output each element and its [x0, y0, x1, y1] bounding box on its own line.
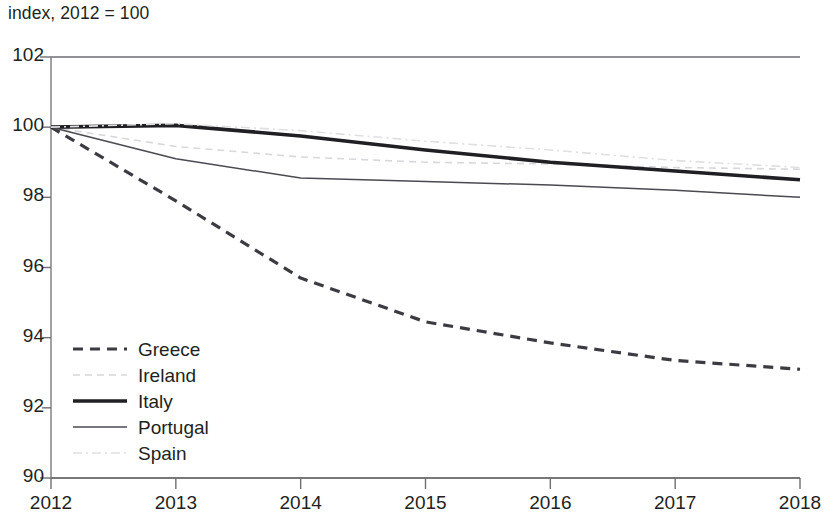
legend-label-italy: Italy: [138, 392, 173, 411]
series-line-spain: [51, 124, 800, 168]
legend-item-spain: Spain: [72, 440, 209, 466]
legend-label-ireland: Ireland: [138, 366, 196, 385]
y-tick-label: 92: [0, 395, 44, 417]
legend-swatch-ireland: [72, 367, 128, 383]
legend-label-portugal: Portugal: [138, 418, 209, 437]
chart-legend: GreeceIrelandItalyPortugalSpain: [72, 336, 209, 466]
y-tick-label: 96: [0, 255, 44, 277]
legend-item-portugal: Portugal: [72, 414, 209, 440]
x-tick-label: 2016: [510, 492, 590, 514]
legend-swatch-portugal: [72, 419, 128, 435]
y-tick-label: 94: [0, 325, 44, 347]
legend-label-greece: Greece: [138, 340, 200, 359]
y-tick-label: 90: [0, 465, 44, 487]
x-tick-label: 2014: [261, 492, 341, 514]
x-tick-label: 2018: [760, 492, 825, 514]
series-line-greece: [51, 127, 800, 369]
x-tick-label: 2015: [386, 492, 466, 514]
legend-label-spain: Spain: [138, 444, 187, 463]
legend-item-italy: Italy: [72, 388, 209, 414]
legend-swatch-spain: [72, 445, 128, 461]
x-tick-label: 2013: [136, 492, 216, 514]
y-tick-label: 100: [0, 114, 44, 136]
series-line-italy: [51, 125, 800, 179]
legend-item-ireland: Ireland: [72, 362, 209, 388]
legend-item-greece: Greece: [72, 336, 209, 362]
series-layer: [51, 124, 800, 370]
y-tick-label: 102: [0, 44, 44, 66]
y-tick-label: 98: [0, 184, 44, 206]
legend-swatch-italy: [72, 393, 128, 409]
legend-swatch-greece: [72, 341, 128, 357]
x-tick-label: 2012: [11, 492, 91, 514]
x-tick-label: 2017: [635, 492, 715, 514]
